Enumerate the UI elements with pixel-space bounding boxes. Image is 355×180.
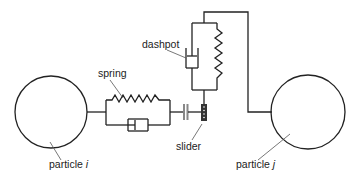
label-slider: slider: [176, 140, 202, 152]
slider: [201, 104, 207, 121]
connector-j: [204, 12, 272, 112]
leader-dashpot: [167, 50, 186, 58]
tangential-spring: [215, 23, 222, 90]
normal-dashpot: [106, 119, 170, 131]
tangential-spring-dashpot-unit: [186, 23, 222, 90]
label-spring: spring: [98, 67, 127, 79]
label-particle-i: particle i: [49, 158, 89, 170]
leader-particle-j: [258, 134, 290, 160]
particle-i-circle: [15, 76, 87, 148]
normal-spring: [106, 95, 170, 102]
particle-j-circle: [271, 75, 345, 149]
leader-slider: [192, 124, 202, 140]
label-dashpot: dashpot: [142, 38, 179, 50]
tangential-dashpot: [186, 23, 198, 90]
gap-element: [183, 104, 189, 120]
contact-model-diagram: dashpot spring slider particle i particl…: [0, 0, 355, 180]
normal-spring-dashpot-unit: [106, 95, 170, 131]
label-particle-j: particle j: [236, 158, 276, 170]
leader-spring: [110, 80, 123, 98]
